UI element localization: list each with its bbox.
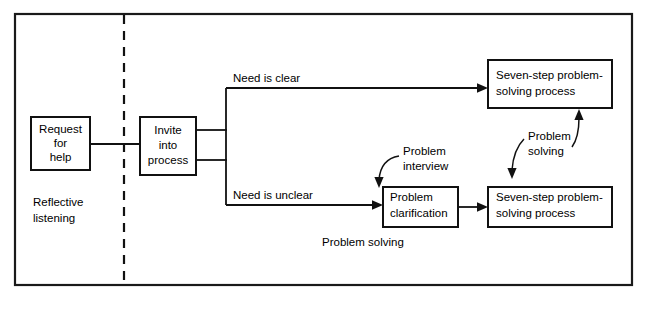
box-request-for-help-line2: for <box>54 137 68 149</box>
box-seven-step-top-line2: solving process <box>496 85 576 97</box>
box-seven-step-top-line1: Seven-step problem- <box>496 69 603 81</box>
box-invite-into-process[interactable]: Invite into process <box>140 117 196 175</box>
box-problem-clarification-line1: Problem <box>390 191 433 203</box>
arrowhead-problem-solving-down <box>507 168 516 179</box>
annotation-label-problem-solving-line1: Problem <box>528 130 571 142</box>
arrowhead-problem-solving-up <box>574 109 583 120</box>
zone-label-reflective-line2: listening <box>33 212 75 224</box>
diagram-canvas: Request for help Invite into process Pro… <box>0 0 647 309</box>
box-invite-into-process-line2: into <box>159 139 178 151</box>
box-problem-clarification[interactable]: Problem clarification <box>383 187 458 227</box>
edge-label-need-is-unclear: Need is unclear <box>233 189 313 201</box>
edge-label-need-is-clear: Need is clear <box>233 72 300 84</box>
annotation-label-problem-solving-line2: solving <box>528 145 564 157</box>
zone-label-reflective-line1: Reflective <box>33 196 84 208</box>
annotation-curve-problem-interview <box>379 156 399 180</box>
arrowhead-clarification-to-seven-step <box>477 202 488 212</box>
box-request-for-help[interactable]: Request for help <box>31 117 90 170</box>
annotation-label-problem-interview-line1: Problem <box>403 145 446 157</box>
box-seven-step-bottom-line2: solving process <box>496 207 576 219</box>
annotation-curve-problem-solving-up <box>572 118 579 147</box>
arrowhead-need-is-unclear <box>372 200 383 210</box>
annotation-curve-problem-solving-down <box>512 139 524 170</box>
zone-label-problem-solving-caption: Problem solving <box>322 236 404 248</box>
box-invite-into-process-line1: Invite <box>154 124 182 136</box>
box-invite-into-process-line3: process <box>148 154 189 166</box>
box-problem-clarification-line2: clarification <box>390 207 448 219</box>
box-request-for-help-line1: Request <box>39 123 83 135</box>
box-seven-step-bottom-line1: Seven-step problem- <box>496 191 603 203</box>
box-seven-step-top[interactable]: Seven-step problem- solving process <box>488 60 612 108</box>
annotation-label-problem-interview-line2: interview <box>403 160 449 172</box>
box-seven-step-bottom[interactable]: Seven-step problem- solving process <box>488 187 612 227</box>
arrowhead-need-is-clear <box>477 83 488 93</box>
box-request-for-help-line3: help <box>50 151 72 163</box>
box-seven-step-top-rect <box>488 60 612 108</box>
flow-diagram: Request for help Invite into process Pro… <box>0 0 647 309</box>
